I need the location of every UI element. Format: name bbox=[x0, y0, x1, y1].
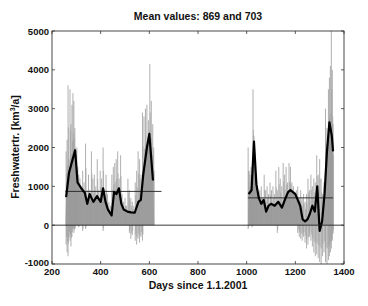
period-1-series bbox=[65, 64, 161, 256]
x-tick-label: 800 bbox=[190, 266, 206, 277]
chart-title: Mean values: 869 and 703 bbox=[134, 10, 263, 22]
y-tick-label: 0 bbox=[44, 220, 49, 231]
x-axis-label: Days since 1.1.2001 bbox=[149, 279, 248, 291]
y-tick-label: 1000 bbox=[28, 181, 49, 192]
freshwater-transport-chart: Mean values: 869 and 703 200400600800100… bbox=[0, 0, 368, 306]
y-tick-label: -1000 bbox=[25, 257, 49, 268]
y-axis-label-post: /a] bbox=[9, 95, 21, 107]
plot-area bbox=[52, 31, 344, 264]
plot-frame bbox=[52, 31, 344, 264]
y-tick-label: 4000 bbox=[28, 64, 49, 75]
x-tick-label: 600 bbox=[141, 266, 157, 277]
x-tick-label: 1200 bbox=[285, 266, 306, 277]
y-tick-label: 3000 bbox=[28, 103, 49, 114]
x-tick-label: 1400 bbox=[333, 266, 354, 277]
y-tick-label: 5000 bbox=[28, 26, 49, 37]
y-tick-label: 2000 bbox=[28, 142, 49, 153]
y-axis-label: Freshwatertr. [km3/a] bbox=[9, 95, 21, 199]
x-tick-label: 400 bbox=[93, 266, 109, 277]
x-tick-label: 1000 bbox=[236, 266, 257, 277]
y-axis-label-pre: Freshwatertr. [km bbox=[9, 111, 21, 199]
period-2-series bbox=[248, 31, 334, 264]
